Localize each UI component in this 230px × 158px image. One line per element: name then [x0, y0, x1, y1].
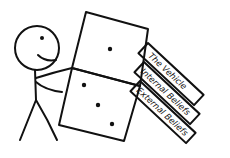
diagram-canvas: The Vehicle Internal Beliefs External Be… [0, 0, 230, 158]
right-leg [36, 100, 57, 140]
torso [35, 70, 36, 100]
smile [38, 55, 56, 60]
head [15, 26, 59, 70]
top-die-pip [108, 47, 112, 51]
eye [40, 36, 44, 40]
bottom-die [59, 68, 140, 141]
bottom-die-pip [82, 83, 86, 87]
left-leg [20, 100, 36, 140]
stick-figure [15, 26, 72, 140]
lower-arm [36, 82, 62, 92]
bottom-die-pip [110, 122, 114, 126]
bottom-die-pip [96, 103, 100, 107]
